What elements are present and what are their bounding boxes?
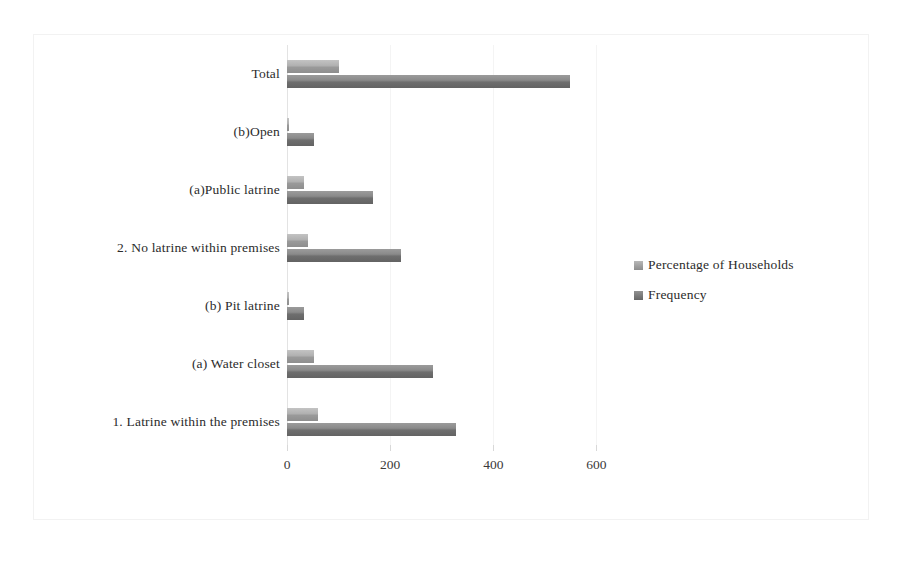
value-tick-label: 200 xyxy=(380,457,400,473)
category-axis-labels: Total(b)Open(a)Public latrine2. No latri… xyxy=(34,45,280,451)
bar-percentage xyxy=(287,292,289,305)
bar-percentage xyxy=(287,234,308,247)
tick-mark xyxy=(596,445,597,451)
legend-swatch-icon xyxy=(634,261,643,270)
bar-group xyxy=(287,219,617,277)
bar-group xyxy=(287,161,617,219)
value-axis-ticks: 0200400600 xyxy=(287,451,617,475)
plot-area: 0200400600 xyxy=(287,45,617,475)
bar-group xyxy=(287,393,617,451)
bar-frequency xyxy=(287,423,456,436)
bar-group xyxy=(287,45,617,103)
value-tick-label: 600 xyxy=(586,457,606,473)
value-tick-label: 0 xyxy=(284,457,291,473)
tick-mark xyxy=(287,445,288,451)
legend-item[interactable]: Percentage of Households xyxy=(634,257,794,273)
bar-frequency xyxy=(287,133,314,146)
bar-rows xyxy=(287,45,617,451)
value-tick-label: 400 xyxy=(483,457,503,473)
category-label: (a)Public latrine xyxy=(34,161,280,219)
category-label: (a) Water closet xyxy=(34,335,280,393)
bar-percentage xyxy=(287,60,339,73)
bar-percentage xyxy=(287,350,314,363)
legend-item[interactable]: Frequency xyxy=(634,287,794,303)
bar-group xyxy=(287,103,617,161)
bar-frequency xyxy=(287,249,401,262)
category-label: 1. Latrine within the premises xyxy=(34,393,280,451)
category-label: Total xyxy=(34,45,280,103)
legend-label: Percentage of Households xyxy=(648,257,794,273)
category-label: (b) Pit latrine xyxy=(34,277,280,335)
bar-percentage xyxy=(287,408,318,421)
tick-mark xyxy=(390,445,391,451)
bar-frequency xyxy=(287,307,304,320)
legend-label: Frequency xyxy=(648,287,707,303)
category-label: 2. No latrine within premises xyxy=(34,219,280,277)
bar-frequency xyxy=(287,191,373,204)
category-label: (b)Open xyxy=(34,103,280,161)
bar-percentage xyxy=(287,176,304,189)
chart-legend: Percentage of HouseholdsFrequency xyxy=(634,257,794,317)
bar-group xyxy=(287,335,617,393)
bar-frequency xyxy=(287,75,570,88)
bar-frequency xyxy=(287,365,433,378)
tick-mark xyxy=(493,445,494,451)
legend-swatch-icon xyxy=(634,291,643,300)
chart-frame: Total(b)Open(a)Public latrine2. No latri… xyxy=(33,34,869,520)
bar-group xyxy=(287,277,617,335)
bar-percentage xyxy=(287,118,289,131)
